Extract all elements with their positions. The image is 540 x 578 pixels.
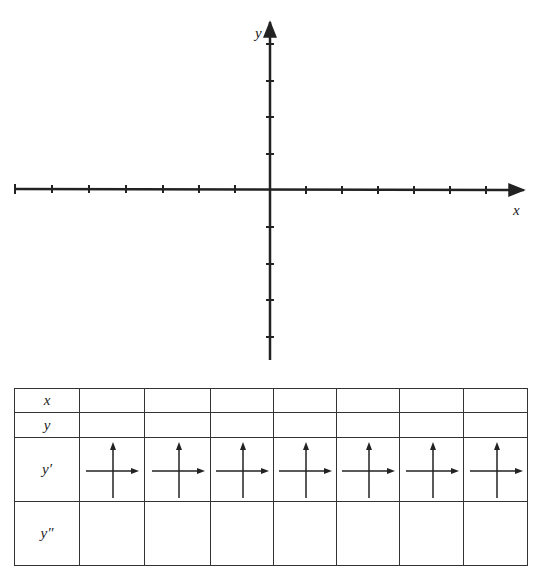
arrow-cross-icon: [338, 440, 398, 500]
cell-y-5[interactable]: [337, 413, 400, 438]
arrow-cross-icon: [402, 440, 462, 500]
row-label-y-double-prime: y″: [15, 502, 80, 566]
cell-y-6[interactable]: [400, 413, 464, 438]
cell-y-1[interactable]: [80, 413, 145, 438]
cell-y-2[interactable]: [145, 413, 211, 438]
cell-ydprime-1[interactable]: [80, 502, 145, 566]
cell-yprime-3[interactable]: [211, 438, 274, 502]
arrow-cross-icon: [148, 440, 208, 500]
arrow-cross-icon: [212, 440, 272, 500]
coordinate-plane: x y: [0, 0, 540, 370]
row-x: x: [15, 389, 528, 413]
cell-y-4[interactable]: [274, 413, 337, 438]
cell-yprime-1[interactable]: [80, 438, 145, 502]
cell-ydprime-7[interactable]: [464, 502, 528, 566]
cell-x-7[interactable]: [464, 389, 528, 413]
cell-x-1[interactable]: [80, 389, 145, 413]
cell-ydprime-2[interactable]: [145, 502, 211, 566]
x-axis-label: x: [512, 202, 520, 218]
arrow-cross-icon: [466, 440, 526, 500]
arrow-cross-icon: [82, 440, 142, 500]
cell-ydprime-6[interactable]: [400, 502, 464, 566]
row-label-x: x: [15, 389, 80, 413]
cell-x-6[interactable]: [400, 389, 464, 413]
cell-yprime-2[interactable]: [145, 438, 211, 502]
cell-y-3[interactable]: [211, 413, 274, 438]
row-label-y-prime: y′: [15, 438, 80, 502]
row-y: y: [15, 413, 528, 438]
y-axis-label: y: [253, 25, 262, 41]
row-y-prime: y′: [15, 438, 528, 502]
cell-y-7[interactable]: [464, 413, 528, 438]
cell-ydprime-4[interactable]: [274, 502, 337, 566]
row-y-double-prime: y″: [15, 502, 528, 566]
cell-ydprime-3[interactable]: [211, 502, 274, 566]
cell-x-4[interactable]: [274, 389, 337, 413]
sign-chart-table: x y y′: [14, 388, 528, 566]
row-label-y: y: [15, 413, 80, 438]
cell-yprime-5[interactable]: [337, 438, 400, 502]
cell-yprime-4[interactable]: [274, 438, 337, 502]
arrow-cross-icon: [275, 440, 335, 500]
cell-ydprime-5[interactable]: [337, 502, 400, 566]
cell-yprime-7[interactable]: [464, 438, 528, 502]
cell-yprime-6[interactable]: [400, 438, 464, 502]
cell-x-3[interactable]: [211, 389, 274, 413]
cell-x-2[interactable]: [145, 389, 211, 413]
cell-x-5[interactable]: [337, 389, 400, 413]
